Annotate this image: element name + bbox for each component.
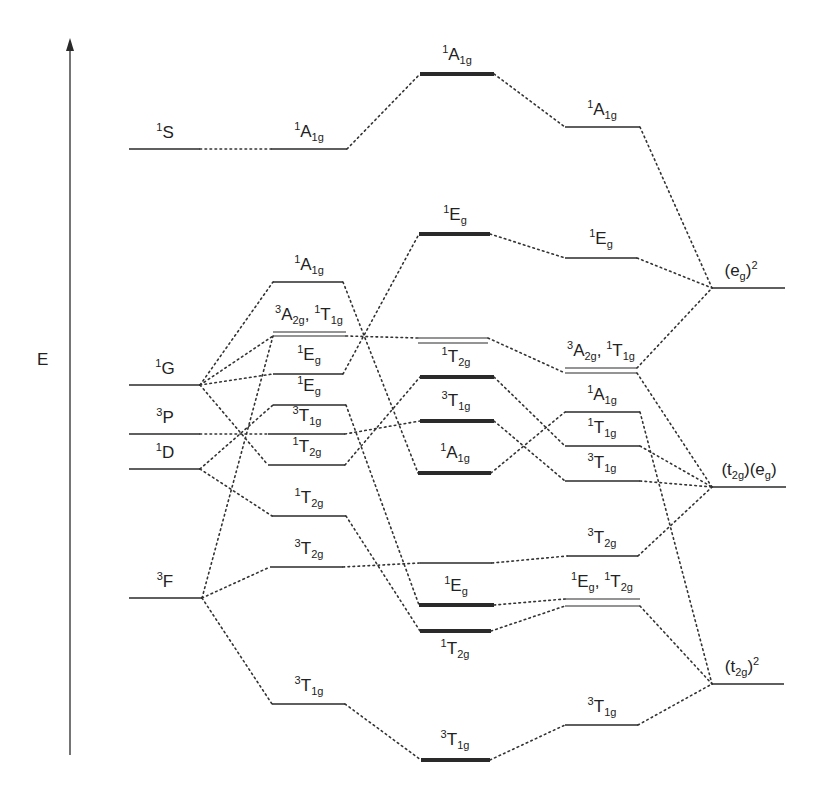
connector-W3T1g-C3T1g <box>345 421 420 434</box>
level-label-L1S: 1S <box>156 124 173 141</box>
connector-R3A2g_a-Feg2 <box>637 288 712 368</box>
level-label-R_dbl_a: 1Eg, 1T2g <box>571 573 633 590</box>
connector-C1A1g-R1A1g <box>491 412 565 473</box>
connector-R3T2g-Ft2geg <box>638 487 712 556</box>
connector-W1A1g_top-C1A1g_top <box>347 74 420 149</box>
connector-R1Eg-Feg2 <box>637 258 712 288</box>
connector-W1T2g_a-C1T2g <box>345 377 420 465</box>
level-label-C1A1g_top: 1A1g <box>442 46 472 63</box>
level-label-R1Eg: 1Eg <box>589 230 613 247</box>
level-label-W1A1g_top: 1A1g <box>294 123 324 140</box>
level-label-W1T2g_b: 1T2g <box>295 489 324 506</box>
connector-W1A1g-C1A1g <box>343 282 418 473</box>
connector-C3T1g-R3T1g <box>494 421 565 481</box>
connector-L3F-W3T2g <box>202 567 270 598</box>
level-label-R1A1g: 1A1g <box>587 386 617 403</box>
connector-R3T1g-Ft2geg <box>640 481 712 487</box>
energy-axis-label: E <box>37 350 48 370</box>
level-label-Ft2g2: (t2g)2 <box>725 658 759 675</box>
connector-C1Eg-R_dbl_a <box>494 599 565 605</box>
level-label-C1A1g: 1A1g <box>440 444 470 461</box>
level-label-L1G: 1G <box>155 360 174 377</box>
level-label-L3F: 3F <box>157 573 174 590</box>
level-label-W1A1g: 1A1g <box>294 256 324 273</box>
diagram-lines <box>0 0 817 792</box>
connector-C_thin-R3T2g <box>492 556 567 563</box>
level-label-Ft2geg: (t2g)(eg) <box>721 461 776 478</box>
connector-W1T2g_b-C1T2g_low <box>346 516 420 631</box>
connector-L1D-W1Eg_b <box>200 405 273 469</box>
level-label-C1T2g_low: 1T2g <box>441 640 470 657</box>
level-label-C3T1g_low: 3T1g <box>441 731 470 748</box>
level-label-C1Eg_top: 1Eg <box>443 206 467 223</box>
level-label-Feg2: (eg)2 <box>724 262 757 279</box>
level-label-R1A1g_top: 1A1g <box>587 101 617 118</box>
connector-L3F-W3A2g_b <box>202 336 273 598</box>
connector-C3T1g_low-R3T1g_low <box>490 725 565 760</box>
connector-W3A2g_b-C_dbl_a <box>346 336 418 338</box>
level-label-R3T1g_low: 3T1g <box>588 698 617 715</box>
connector-R1A1g-Ft2g2 <box>640 412 712 684</box>
energy-axis-arrow <box>66 38 74 755</box>
connector-W3T2g-C_thin <box>343 563 420 567</box>
level-label-R3T2g: 3T2g <box>588 529 617 546</box>
connector-W1Eg_b-C1Eg <box>346 405 419 605</box>
level-label-W3T1g_low: 3T1g <box>295 677 324 694</box>
level-label-L1D: 1D <box>156 444 174 461</box>
connector-L1D-W1T2g_b <box>200 469 272 516</box>
level-label-C1Eg: 1Eg <box>444 577 468 594</box>
connector-L1G-W1A1g <box>200 282 273 385</box>
connector-W1Eg_a-C1Eg_top <box>343 234 419 374</box>
level-label-C1T2g: 1T2g <box>442 348 471 365</box>
correlation-diagram: E 1S1G3P1D3F1A1g1A1g3A2g, 1T1g1Eg1Eg3T1g… <box>0 0 817 792</box>
arrow-up-icon <box>66 38 74 51</box>
level-label-W3A2g_a: 3A2g, 1T1g <box>275 306 343 323</box>
connector-R3A2g_b-Ft2geg <box>637 373 712 487</box>
level-label-R1T1g: 1T1g <box>588 419 617 436</box>
level-label-W3T2g: 3T2g <box>295 540 324 557</box>
connector-R3T1g_low-Ft2g2 <box>638 684 712 725</box>
level-label-W3T1g: 3T1g <box>293 407 322 424</box>
connector-C1T2g_low-R_dbl_b <box>491 606 565 631</box>
connector-W3T1g_low-C3T1g_low <box>345 704 421 760</box>
level-label-R3A2g_a: 3A2g, 1T1g <box>567 342 635 359</box>
level-label-W1Eg_b: 1Eg <box>297 377 321 394</box>
connector-C1A1g_top-R1A1g_top <box>494 74 565 127</box>
level-label-L3P: 3P <box>156 409 173 426</box>
connector-L1G-W3A2g_b <box>200 336 273 385</box>
connector-C1Eg_top-R1Eg <box>490 234 565 258</box>
connector-L1G-W1T2g_a <box>200 385 268 465</box>
level-label-R3T1g: 3T1g <box>588 454 617 471</box>
level-label-C3T1g: 3T1g <box>442 392 471 409</box>
connector-L3F-W3T1g_low <box>202 598 272 704</box>
connector-C_dbl_a-R3A2g_b <box>488 338 565 373</box>
level-label-W1Eg_a: 1Eg <box>297 346 321 363</box>
connector-C1T2g-R1T1g <box>494 377 565 446</box>
level-label-W1T2g_a: 1T2g <box>293 438 322 455</box>
